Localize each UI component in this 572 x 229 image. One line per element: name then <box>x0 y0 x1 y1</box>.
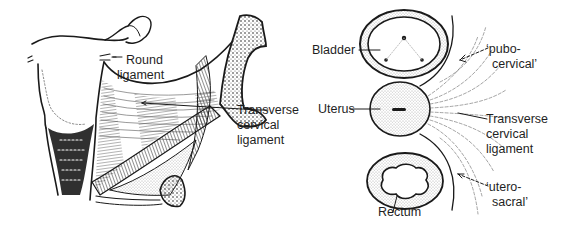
label-transverse-cervical-ligament-left-line3: ligament <box>237 133 284 147</box>
label-transverse-cervical-ligament-right-line3: ligament <box>486 142 533 156</box>
label-transverse-cervical-ligament-left-line1: Transverse <box>237 103 299 117</box>
label-pubocervical-line2: cervical’ <box>492 57 537 71</box>
label-uterosacral-line1: ‘utero- <box>486 180 521 194</box>
bladder-section <box>360 10 448 78</box>
label-rectum: Rectum <box>378 205 421 219</box>
label-transverse-cervical-ligament-left-line2: cervical <box>237 118 279 132</box>
anatomy-figure: Round ligament Transverse cervical ligam… <box>0 0 572 229</box>
label-uterus: Uterus <box>318 102 355 116</box>
label-round-ligament-line1: Round <box>126 53 163 67</box>
left-panel-uterus-sidewall <box>28 15 268 206</box>
label-pubocervical-line1: ‘pubo- <box>486 42 521 56</box>
rectum-section <box>367 153 443 209</box>
label-transverse-cervical-ligament-right-line1: Transverse <box>486 112 548 126</box>
label-round-ligament-line2: ligament <box>117 68 164 82</box>
label-transverse-cervical-ligament-right-line2: cervical <box>486 127 528 141</box>
label-uterosacral-line2: sacral’ <box>492 195 528 209</box>
label-bladder: Bladder <box>312 43 355 57</box>
right-panel-transverse-section <box>350 10 508 214</box>
